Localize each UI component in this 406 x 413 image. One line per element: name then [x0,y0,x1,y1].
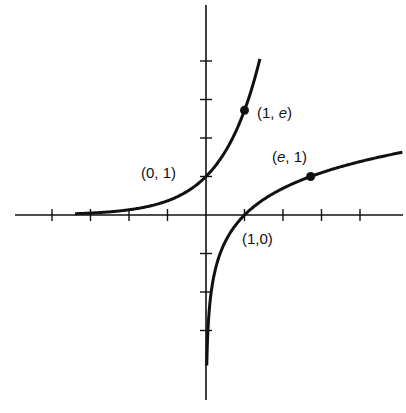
label-1-e: (1, e) [257,104,292,121]
point-marker [240,106,249,115]
label-e-1: (e, 1) [272,148,307,165]
exp-curve [75,59,260,214]
axes [15,5,403,400]
point-marker [306,172,315,181]
ln-curve [207,152,403,365]
label-0-1: (0, 1) [141,164,176,181]
function-graph: (0, 1) (1, e) (e, 1) (1,0) [0,0,406,413]
label-1-0: (1,0) [242,230,273,247]
